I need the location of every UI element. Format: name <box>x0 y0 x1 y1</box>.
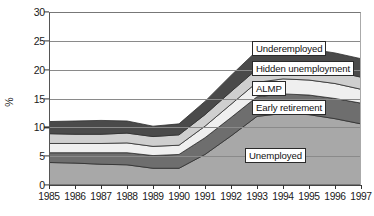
y-axis-ticks: 051015202530 <box>0 12 45 185</box>
x-tick-mark-1994 <box>283 185 284 189</box>
series-label-underemployed: Underemployed <box>252 41 326 56</box>
series-label-early-retirement: Early retirement <box>252 100 326 115</box>
y-tick-label-0: 0 <box>5 179 45 191</box>
x-tick-mark-1991 <box>205 185 206 189</box>
x-tick-label-1992: 1992 <box>220 191 241 202</box>
x-tick-label-1985: 1985 <box>38 191 59 202</box>
x-tick-mark-1997 <box>361 185 362 189</box>
series-label-hidden-unemployment: Hidden unemployment <box>252 61 354 76</box>
x-tick-mark-1996 <box>335 185 336 189</box>
y-tick-label-5: 5 <box>5 150 45 162</box>
x-tick-label-1994: 1994 <box>272 191 293 202</box>
y-tick-label-25: 25 <box>5 35 45 47</box>
x-tick-label-1996: 1996 <box>324 191 345 202</box>
plot-area <box>49 12 361 185</box>
series-label-unemployed: Unemployed <box>245 148 306 163</box>
x-tick-label-1986: 1986 <box>64 191 85 202</box>
y-tick-label-15: 15 <box>5 93 45 105</box>
x-tick-mark-1992 <box>231 185 232 189</box>
x-tick-label-1988: 1988 <box>116 191 137 202</box>
x-tick-label-1995: 1995 <box>298 191 319 202</box>
x-tick-mark-1989 <box>153 185 154 189</box>
x-tick-mark-1987 <box>101 185 102 189</box>
y-tick-label-30: 30 <box>5 6 45 18</box>
x-tick-label-1997: 1997 <box>350 191 371 202</box>
stacked-area-chart: % 051015202530 1985198619871988198919901… <box>0 0 374 216</box>
y-tick-label-10: 10 <box>5 121 45 133</box>
y-tick-label-20: 20 <box>5 64 45 76</box>
x-tick-mark-1995 <box>309 185 310 189</box>
x-tick-label-1990: 1990 <box>168 191 189 202</box>
x-tick-label-1989: 1989 <box>142 191 163 202</box>
x-tick-label-1987: 1987 <box>90 191 111 202</box>
series-label-almp: ALMP <box>252 81 286 96</box>
x-tick-label-1991: 1991 <box>194 191 215 202</box>
x-axis-ticks: 1985198619871988198919901991199219931994… <box>49 185 361 215</box>
x-tick-mark-1988 <box>127 185 128 189</box>
x-tick-label-1993: 1993 <box>246 191 267 202</box>
x-tick-mark-1986 <box>75 185 76 189</box>
x-tick-mark-1993 <box>257 185 258 189</box>
x-tick-mark-1985 <box>49 185 50 189</box>
plot-border <box>49 12 361 185</box>
x-tick-mark-1990 <box>179 185 180 189</box>
